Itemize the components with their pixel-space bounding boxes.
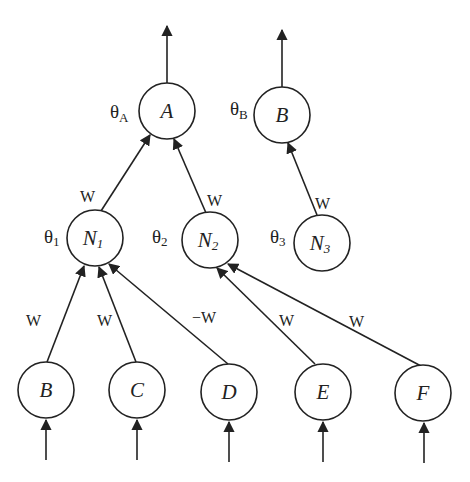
edge-n3-to-b bbox=[288, 143, 317, 215]
theta-3: θ3 bbox=[270, 226, 286, 249]
node-a: A bbox=[139, 83, 195, 139]
weight-n3-b: W bbox=[315, 195, 331, 212]
node-b-output-label: B bbox=[276, 103, 289, 127]
edge-n1-to-a bbox=[101, 135, 150, 211]
theta-2: θ2 bbox=[152, 226, 168, 249]
edge-f-to-n2 bbox=[228, 264, 421, 366]
weight-f-n2: W bbox=[349, 313, 365, 330]
node-d-label: D bbox=[220, 380, 236, 404]
node-b-input-label: B bbox=[40, 378, 53, 402]
weight-d-n1: −W bbox=[192, 309, 217, 326]
node-f: F bbox=[395, 365, 451, 421]
node-e: E bbox=[295, 364, 351, 420]
node-d: D bbox=[201, 364, 257, 420]
theta-b: θB bbox=[230, 98, 248, 122]
node-c-label: C bbox=[130, 378, 145, 402]
weight-n2-a: W bbox=[207, 192, 223, 209]
edge-n2-to-a bbox=[174, 139, 206, 213]
node-b-input: B bbox=[18, 362, 74, 418]
theta-1: θ1 bbox=[44, 226, 60, 249]
node-e-label: E bbox=[316, 380, 330, 404]
node-c: C bbox=[109, 362, 165, 418]
edge-b-to-n1 bbox=[47, 266, 84, 362]
node-n2: N2 bbox=[182, 212, 238, 268]
neural-network-diagram: A θA B θB N1 θ1 N2 θ2 N3 θ3 B C D E F bbox=[0, 0, 470, 482]
node-n3: N3 bbox=[294, 215, 350, 271]
theta-a: θA bbox=[110, 101, 129, 125]
node-n1: N1 bbox=[67, 210, 123, 266]
edge-e-to-n2 bbox=[217, 268, 315, 364]
node-f-label: F bbox=[416, 381, 430, 405]
node-a-label: A bbox=[159, 99, 174, 123]
weight-b-n1: W bbox=[26, 312, 42, 329]
weight-n1-a: W bbox=[80, 188, 96, 205]
node-b-output: B bbox=[254, 87, 310, 143]
weight-e-n2: W bbox=[279, 312, 295, 329]
weight-c-n1: W bbox=[97, 312, 113, 329]
